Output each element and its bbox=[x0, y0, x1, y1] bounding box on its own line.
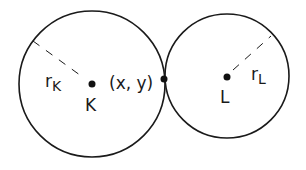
tangent-circles-diagram: rK K rL L (x, y) bbox=[0, 0, 306, 170]
tangent-point-dot bbox=[161, 76, 168, 83]
radius-l-label: rL bbox=[251, 64, 266, 87]
center-l-label: L bbox=[220, 87, 230, 107]
tangent-point: (x, y) bbox=[109, 73, 168, 93]
tangent-point-label: (x, y) bbox=[109, 73, 153, 93]
radius-k-label: rK bbox=[45, 71, 62, 94]
radius-k-dashed-line bbox=[33, 41, 84, 78]
circle-l: rL L bbox=[165, 14, 289, 138]
center-k-dot bbox=[89, 81, 96, 88]
center-l-dot bbox=[224, 74, 231, 81]
center-k-label: K bbox=[85, 95, 97, 115]
